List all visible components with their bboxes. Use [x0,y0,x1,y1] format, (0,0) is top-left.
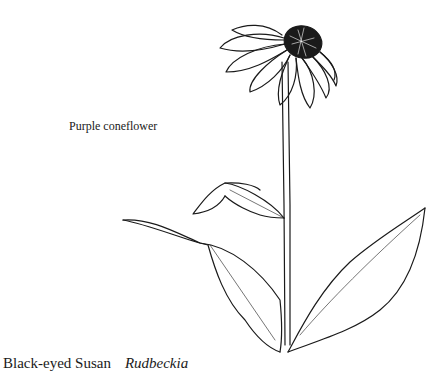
flower-illustration [0,0,446,378]
caption: Black-eyed SusanRudbeckia [3,355,188,372]
upper-leaf-icon [193,183,284,218]
right-leaf-icon [288,208,425,352]
scientific-name: Rudbeckia [125,355,188,371]
annotation-label: Purple coneflower [69,119,157,134]
left-leaf-icon [123,220,282,352]
common-name: Black-eyed Susan [3,355,111,371]
cone-center-icon [281,22,326,63]
stem-icon [282,62,290,345]
